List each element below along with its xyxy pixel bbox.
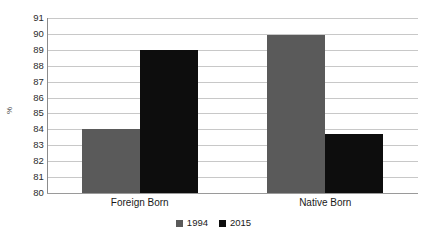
bar-chart: % 919089888786858483828180 Foreign BornN… bbox=[0, 0, 427, 238]
y-tick-label: 81 bbox=[14, 171, 44, 183]
y-axis-tick-labels: 919089888786858483828180 bbox=[14, 12, 44, 194]
plot-area bbox=[47, 18, 418, 193]
bar-foreign-born-1994[interactable] bbox=[82, 129, 140, 193]
y-tick-label: 88 bbox=[14, 60, 44, 72]
chart-legend: 19942015 bbox=[0, 215, 427, 231]
y-tick-label: 84 bbox=[14, 123, 44, 135]
category-label-native-born: Native Born bbox=[233, 195, 419, 211]
bar-foreign-born-2015[interactable] bbox=[140, 50, 198, 193]
legend-label: 1994 bbox=[187, 218, 208, 228]
legend-swatch-icon bbox=[219, 220, 226, 227]
legend-swatch-icon bbox=[176, 220, 183, 227]
y-tick-label: 87 bbox=[14, 76, 44, 88]
y-tick-label: 91 bbox=[14, 12, 44, 24]
bar-native-born-1994[interactable] bbox=[267, 35, 325, 193]
x-axis-category-labels: Foreign BornNative Born bbox=[47, 195, 418, 211]
y-tick-label: 85 bbox=[14, 107, 44, 119]
y-tick-label: 83 bbox=[14, 139, 44, 151]
y-tick-label: 90 bbox=[14, 28, 44, 40]
legend-label: 2015 bbox=[230, 218, 251, 228]
y-tick-label: 86 bbox=[14, 92, 44, 104]
y-tick-label: 80 bbox=[14, 187, 44, 199]
legend-item-2015[interactable]: 2015 bbox=[219, 218, 251, 228]
bars-layer bbox=[47, 18, 418, 193]
y-tick-label: 89 bbox=[14, 44, 44, 56]
y-tick-label: 82 bbox=[14, 155, 44, 167]
category-label-foreign-born: Foreign Born bbox=[47, 195, 233, 211]
gridline-80 bbox=[47, 193, 418, 194]
bar-native-born-2015[interactable] bbox=[325, 134, 383, 193]
legend-item-1994[interactable]: 1994 bbox=[176, 218, 208, 228]
